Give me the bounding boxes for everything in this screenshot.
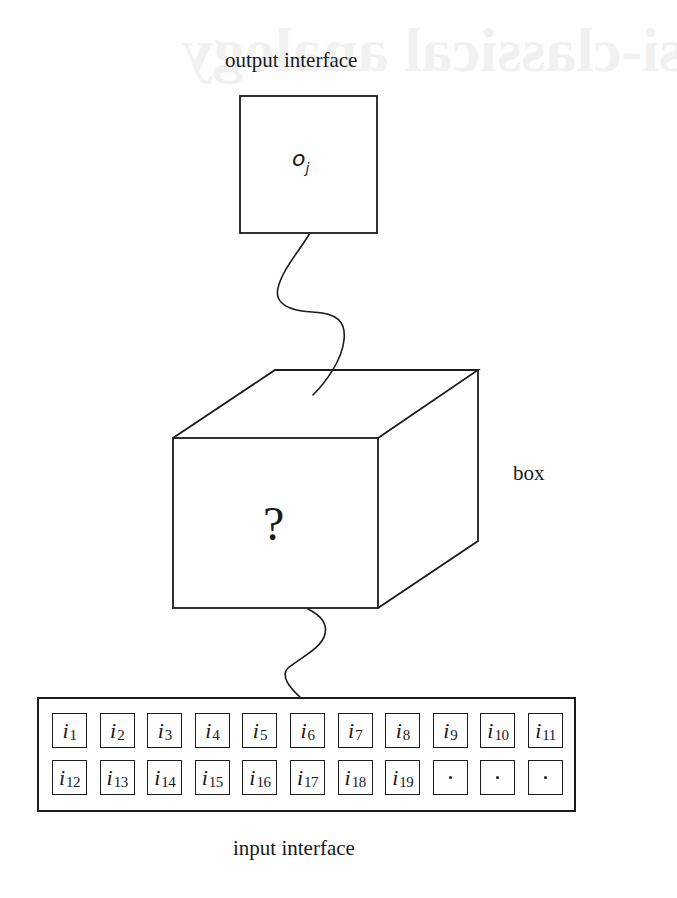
input-cell-subscript: 10 xyxy=(494,727,508,744)
input-cell-i12: i12 xyxy=(52,760,87,795)
input-cell-i19: i19 xyxy=(385,760,420,795)
input-cell-i16: i16 xyxy=(242,760,277,795)
input-cell-i7: i7 xyxy=(338,713,373,748)
input-cell-i11: i11 xyxy=(528,713,563,748)
input-cell-i18: i18 xyxy=(338,760,373,795)
input-cell-subscript: 5 xyxy=(260,727,267,744)
input-cell-subscript: 19 xyxy=(399,774,413,791)
input-cell-i5: i5 xyxy=(242,713,277,748)
input-cell-symbol: i xyxy=(396,718,402,744)
input-cell-symbol: i xyxy=(345,765,351,791)
input-cell-symbol: i xyxy=(253,718,259,744)
input-cell-symbol: i xyxy=(107,765,113,791)
input-cell-ellipsis xyxy=(480,760,515,795)
input-cell-subscript: 12 xyxy=(66,774,80,791)
input-cell-symbol: i xyxy=(202,765,208,791)
input-cell-i8: i8 xyxy=(385,713,420,748)
input-cell-i6: i6 xyxy=(290,713,325,748)
input-wire xyxy=(285,609,325,697)
input-cell-i17: i17 xyxy=(290,760,325,795)
input-cell-subscript: 15 xyxy=(209,774,223,791)
input-cell-i15: i15 xyxy=(195,760,230,795)
input-cell-i9: i9 xyxy=(433,713,468,748)
input-cell-symbol: i xyxy=(158,718,164,744)
input-cell-subscript: 6 xyxy=(308,727,315,744)
black-box-cube xyxy=(173,370,478,608)
input-cell-i13: i13 xyxy=(100,760,135,795)
input-cell-i3: i3 xyxy=(147,713,182,748)
input-cell-symbol: i xyxy=(392,765,398,791)
output-symbol: oj xyxy=(292,146,309,174)
input-cell-i10: i10 xyxy=(480,713,515,748)
input-cell-symbol: i xyxy=(300,718,306,744)
input-cell-subscript: 7 xyxy=(355,727,362,744)
input-cell-symbol: i xyxy=(59,765,65,791)
input-cell-ellipsis xyxy=(433,760,468,795)
input-cell-i2: i2 xyxy=(100,713,135,748)
input-cell-symbol: i xyxy=(535,718,541,744)
input-cell-subscript: 16 xyxy=(256,774,270,791)
input-cell-symbol: i xyxy=(205,718,211,744)
input-cell-subscript: 18 xyxy=(352,774,366,791)
input-cell-subscript: 11 xyxy=(542,727,555,744)
input-cell-i1: i1 xyxy=(52,713,87,748)
input-cell-symbol: i xyxy=(110,718,116,744)
input-cell-subscript: 4 xyxy=(212,727,219,744)
input-cell-symbol: i xyxy=(487,718,493,744)
unknown-question-mark: ? xyxy=(263,500,284,548)
input-cell-symbol: i xyxy=(443,718,449,744)
input-cell-ellipsis xyxy=(528,760,563,795)
input-cell-subscript: 8 xyxy=(403,727,410,744)
input-cell-i4: i4 xyxy=(195,713,230,748)
cube-right-face xyxy=(378,370,478,608)
input-cell-symbol: i xyxy=(249,765,255,791)
input-cell-subscript: 3 xyxy=(165,727,172,744)
input-cell-subscript: 13 xyxy=(114,774,128,791)
input-cell-subscript: 1 xyxy=(70,727,77,744)
input-cell-subscript: 2 xyxy=(117,727,124,744)
input-cell-symbol: i xyxy=(297,765,303,791)
input-cell-subscript: 14 xyxy=(161,774,175,791)
input-cell-symbol: i xyxy=(348,718,354,744)
input-cell-i14: i14 xyxy=(147,760,182,795)
input-cell-subscript: 9 xyxy=(450,727,457,744)
input-cell-subscript: 17 xyxy=(304,774,318,791)
input-cell-symbol: i xyxy=(154,765,160,791)
input-cell-symbol: i xyxy=(62,718,68,744)
